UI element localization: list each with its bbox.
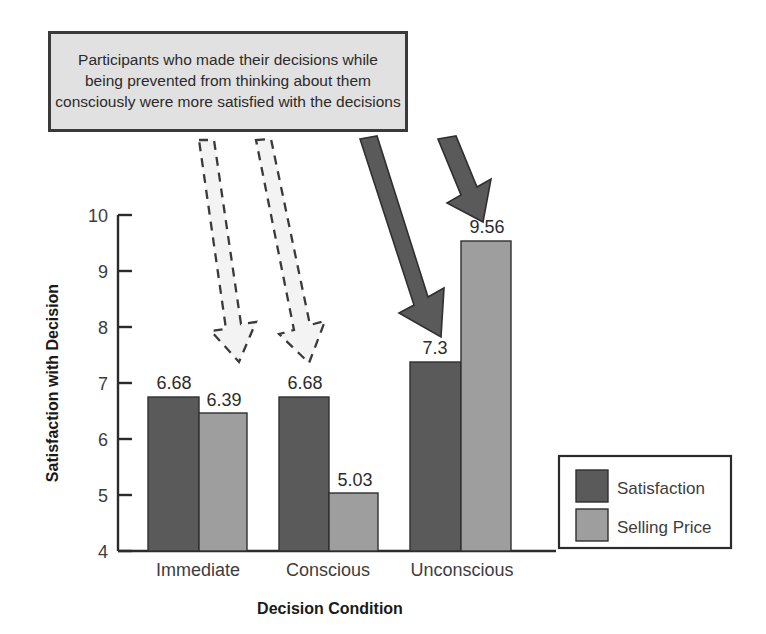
bar-immediate-satisfaction (148, 397, 199, 551)
legend-swatch-selling-price (576, 509, 608, 541)
y-tick-label-8: 8 (98, 318, 108, 338)
annotation-arrows (199, 136, 491, 363)
y-axis-title: Satisfaction with Decision (44, 284, 61, 482)
y-tick-label-5: 5 (98, 486, 108, 506)
y-tick-label-6: 6 (98, 430, 108, 450)
x-axis-title: Decision Condition (257, 600, 403, 617)
bar-chart: 10 9 8 7 6 5 4 6.68 6.39 Immediate 6.68 … (0, 0, 766, 634)
value-label-immediate-satisfaction: 6.68 (156, 373, 191, 393)
legend-swatch-satisfaction (576, 470, 608, 502)
bar-unconscious-satisfaction (410, 362, 461, 551)
bar-group-unconscious: 7.3 9.56 Unconscious (410, 217, 514, 580)
bar-conscious-selling-price (329, 493, 378, 551)
solid-arrow-unconscious-short (438, 136, 491, 222)
bar-group-immediate: 6.68 6.39 Immediate (148, 373, 247, 580)
figure-container: Participants who made their decisions wh… (0, 0, 766, 634)
bar-conscious-satisfaction (279, 397, 329, 551)
bar-immediate-selling-price (199, 413, 247, 551)
dashed-arrow-conscious (256, 139, 325, 363)
y-tick-label-7: 7 (98, 374, 108, 394)
value-label-unconscious-satisfaction: 7.3 (422, 338, 447, 358)
bar-unconscious-selling-price (461, 241, 511, 551)
y-tick-label-4: 4 (98, 542, 108, 562)
x-tick-label-unconscious: Unconscious (410, 560, 513, 580)
legend-label-satisfaction: Satisfaction (617, 479, 705, 498)
value-label-unconscious-selling-price: 9.56 (469, 217, 504, 237)
legend-label-selling-price: Selling Price (617, 518, 712, 537)
value-label-conscious-selling-price: 5.03 (337, 470, 372, 490)
legend: Satisfaction Selling Price (559, 456, 731, 548)
dashed-arrow-immediate (199, 140, 256, 362)
solid-arrow-unconscious-long (360, 136, 444, 337)
bar-group-conscious: 6.68 5.03 Conscious (279, 373, 378, 580)
x-tick-label-conscious: Conscious (286, 560, 370, 580)
value-label-immediate-selling-price: 6.39 (206, 390, 241, 410)
y-tick-label-10: 10 (88, 206, 108, 226)
value-label-conscious-satisfaction: 6.68 (287, 373, 322, 393)
y-tick-label-9: 9 (98, 262, 108, 282)
x-tick-label-immediate: Immediate (156, 560, 240, 580)
y-axis: 10 9 8 7 6 5 4 (88, 206, 132, 562)
